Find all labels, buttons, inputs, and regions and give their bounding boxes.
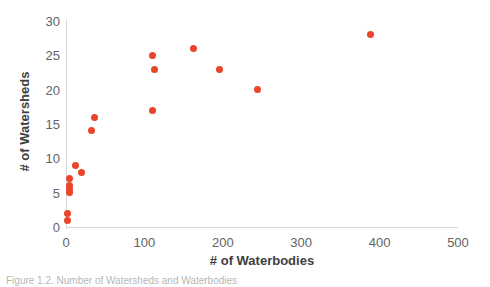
x-tick-label: 100	[114, 236, 174, 249]
data-point	[151, 66, 158, 73]
x-axis-title: # of Waterbodies	[66, 253, 458, 268]
figure-caption-clipped: Figure 1.2. Number of Watersheds and Wat…	[0, 276, 490, 287]
data-point	[64, 217, 71, 224]
data-point	[88, 127, 95, 134]
data-point	[91, 114, 98, 121]
figure-caption-text: Figure 1.2. Number of Watersheds and Wat…	[6, 276, 237, 287]
scatter-chart-figure: 051015202530 0100200300400500 # of Water…	[0, 0, 490, 287]
data-point	[72, 162, 79, 169]
x-tick-label: 400	[350, 236, 410, 249]
data-point	[66, 175, 73, 182]
data-point	[149, 52, 156, 59]
x-axis-line	[66, 227, 458, 228]
data-point	[254, 86, 261, 93]
y-axis-title: # of Watersheds	[17, 42, 32, 202]
plot-region	[66, 21, 458, 227]
data-point	[149, 107, 156, 114]
data-point	[64, 210, 71, 217]
data-point	[216, 66, 223, 73]
x-tick-label: 0	[36, 236, 96, 249]
chart-area: 051015202530 0100200300400500 # of Water…	[0, 0, 490, 268]
x-tick-label: 500	[428, 236, 488, 249]
x-tick-label: 200	[193, 236, 253, 249]
x-tick-label: 300	[271, 236, 331, 249]
data-point	[78, 169, 85, 176]
data-point	[190, 45, 197, 52]
y-tick-label: 0	[26, 221, 60, 234]
x-axis-tick-labels: 0100200300400500	[0, 236, 490, 252]
y-tick-label: 30	[26, 15, 60, 28]
data-point	[367, 31, 374, 38]
